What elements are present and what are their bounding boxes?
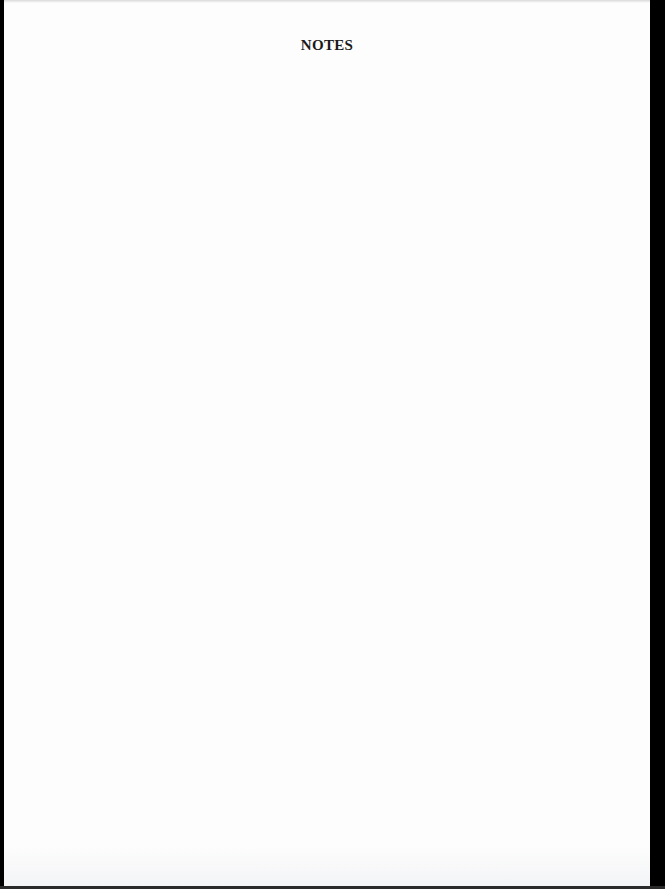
- page-title: NOTES: [4, 37, 650, 54]
- notes-page: NOTES: [4, 0, 650, 886]
- page-top-edge: [4, 0, 650, 3]
- page-bottom-edge: [4, 846, 650, 886]
